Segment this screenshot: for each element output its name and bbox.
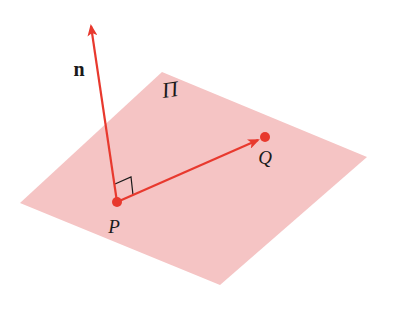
point-q: [260, 132, 270, 142]
point-p: [112, 197, 122, 207]
plane-normal-diagram: Π n P Q: [0, 0, 403, 309]
point-p-label: P: [107, 216, 120, 237]
plane-pi: [20, 72, 367, 285]
normal-vector-label: n: [73, 58, 84, 80]
point-q-label: Q: [258, 147, 272, 168]
